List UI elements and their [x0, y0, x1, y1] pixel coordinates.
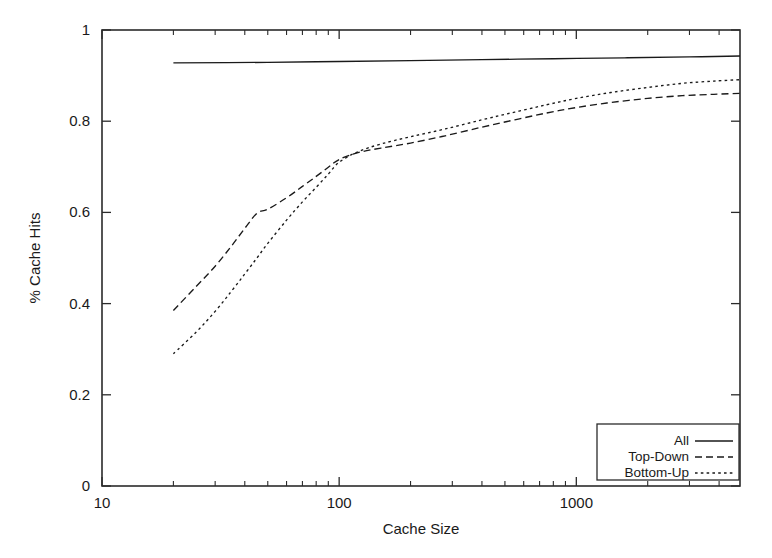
x-axis-title: Cache Size — [383, 520, 460, 537]
chart-canvas: 101001000 00.20.40.60.81 Cache Size % Ca… — [0, 0, 772, 558]
legend-label-bottom-up: Bottom-Up — [624, 465, 689, 480]
y-tick-label: 0.6 — [69, 203, 90, 220]
y-axis-tick-labels: 00.20.40.60.81 — [69, 21, 90, 494]
y-tick-label: 0.4 — [69, 295, 90, 312]
x-tick-label: 10 — [94, 494, 111, 511]
x-tick-label: 100 — [327, 494, 352, 511]
y-axis-ticks — [102, 30, 740, 486]
y-axis-title: % Cache Hits — [26, 213, 43, 304]
y-tick-label: 0.8 — [69, 112, 90, 129]
chart-legend: AllTop-DownBottom-Up — [597, 424, 739, 480]
y-tick-label: 1 — [82, 21, 90, 38]
x-tick-label: 1000 — [560, 494, 593, 511]
y-tick-label: 0 — [82, 477, 90, 494]
data-series-group — [173, 56, 740, 354]
series-bottom-up — [173, 80, 740, 354]
chart-figure: 101001000 00.20.40.60.81 Cache Size % Ca… — [0, 0, 772, 558]
plot-frame — [102, 30, 740, 486]
legend-label-top-down: Top-Down — [628, 449, 689, 464]
x-axis-tick-labels: 101001000 — [94, 494, 593, 511]
legend-label-all: All — [674, 433, 689, 448]
x-axis-ticks — [102, 30, 719, 486]
y-tick-label: 0.2 — [69, 386, 90, 403]
series-all — [173, 56, 740, 63]
